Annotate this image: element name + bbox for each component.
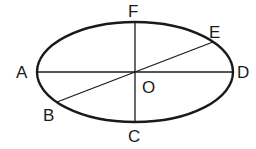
label-A: A [16,63,28,82]
label-E: E [209,23,220,42]
label-O: O [142,78,155,97]
ellipse-diagram: A B C D E F O [0,0,256,149]
label-C: C [128,127,140,146]
diagram-svg: A B C D E F O [0,0,256,149]
label-B: B [43,106,54,125]
label-F: F [128,2,138,21]
label-D: D [237,63,249,82]
